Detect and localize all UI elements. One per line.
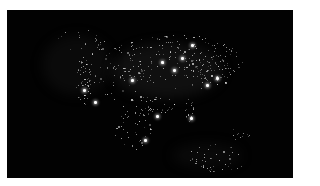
city-light xyxy=(202,160,203,161)
city-light xyxy=(151,109,152,110)
city-light xyxy=(85,43,87,45)
city-light xyxy=(141,70,143,72)
city-light xyxy=(147,97,148,98)
city-light xyxy=(191,151,192,152)
city-light xyxy=(142,47,143,48)
city-light xyxy=(229,158,231,160)
city-light xyxy=(192,63,194,65)
city-light xyxy=(132,60,133,61)
city-light xyxy=(238,64,239,65)
city-light xyxy=(65,32,66,33)
city-light xyxy=(179,67,180,68)
city-light xyxy=(145,136,146,137)
city-light xyxy=(193,37,195,39)
city-light xyxy=(204,157,205,158)
city-light xyxy=(94,82,95,83)
city-light xyxy=(191,103,192,104)
city-light xyxy=(201,166,202,167)
city-light xyxy=(136,149,137,150)
city-light xyxy=(169,99,170,100)
city-light xyxy=(165,112,166,113)
city-light xyxy=(121,45,122,46)
city-light xyxy=(220,61,221,62)
city-light xyxy=(170,56,171,57)
city-light xyxy=(241,166,242,167)
city-light xyxy=(188,99,189,100)
city-light xyxy=(161,112,162,113)
city-light xyxy=(235,139,236,140)
city-light xyxy=(233,135,234,136)
city-light xyxy=(228,68,229,69)
city-light xyxy=(85,104,87,106)
city-light xyxy=(207,168,208,169)
city-light xyxy=(193,76,194,77)
city-light xyxy=(78,32,79,33)
city-light xyxy=(230,54,231,55)
city-light xyxy=(100,78,102,80)
city-light xyxy=(220,77,222,79)
bright-city-light xyxy=(206,84,209,87)
city-light xyxy=(136,106,137,107)
city-light xyxy=(202,39,203,40)
city-light xyxy=(217,84,218,85)
city-light xyxy=(135,112,136,113)
city-light xyxy=(232,48,233,49)
city-light xyxy=(216,154,217,155)
city-light xyxy=(121,52,122,53)
city-light xyxy=(84,95,85,96)
city-light xyxy=(214,171,215,172)
city-light xyxy=(216,55,217,56)
city-light xyxy=(95,75,97,77)
city-light xyxy=(125,114,126,115)
city-light xyxy=(132,145,133,146)
city-light xyxy=(139,47,140,48)
bright-city-light xyxy=(94,101,97,104)
city-light xyxy=(140,96,142,98)
city-light xyxy=(186,61,187,62)
city-light xyxy=(223,151,225,153)
city-light xyxy=(198,71,199,72)
city-light xyxy=(172,75,173,76)
city-light xyxy=(199,36,200,37)
city-light xyxy=(249,135,250,136)
city-light xyxy=(128,116,129,117)
city-light xyxy=(169,57,170,58)
city-light xyxy=(212,57,213,58)
city-light xyxy=(87,98,88,99)
city-light xyxy=(184,51,186,53)
city-light xyxy=(211,75,213,77)
city-light xyxy=(142,145,143,146)
city-light xyxy=(159,39,160,40)
city-light xyxy=(146,101,147,102)
city-light xyxy=(238,133,239,134)
city-light xyxy=(130,60,131,61)
city-light xyxy=(105,58,107,60)
city-light xyxy=(121,126,122,127)
city-light xyxy=(116,128,118,130)
city-light xyxy=(153,82,154,83)
city-light xyxy=(137,124,138,125)
city-light xyxy=(192,84,193,85)
city-light xyxy=(192,102,194,104)
city-light xyxy=(186,103,187,104)
city-light xyxy=(107,67,108,68)
city-light xyxy=(105,94,107,96)
city-light xyxy=(186,67,188,69)
city-light xyxy=(225,82,227,84)
city-light xyxy=(233,129,234,130)
city-light xyxy=(220,55,221,56)
city-light xyxy=(201,88,202,89)
city-light xyxy=(218,56,219,57)
city-light xyxy=(177,41,178,42)
city-light xyxy=(210,167,211,168)
city-light xyxy=(222,74,223,75)
city-light xyxy=(186,38,187,39)
city-light xyxy=(210,171,211,172)
city-light xyxy=(213,166,214,167)
city-light xyxy=(227,65,228,66)
city-light xyxy=(224,76,225,77)
city-light xyxy=(205,38,206,39)
city-light xyxy=(237,168,238,169)
city-light xyxy=(139,141,140,142)
bright-city-light xyxy=(173,69,176,72)
